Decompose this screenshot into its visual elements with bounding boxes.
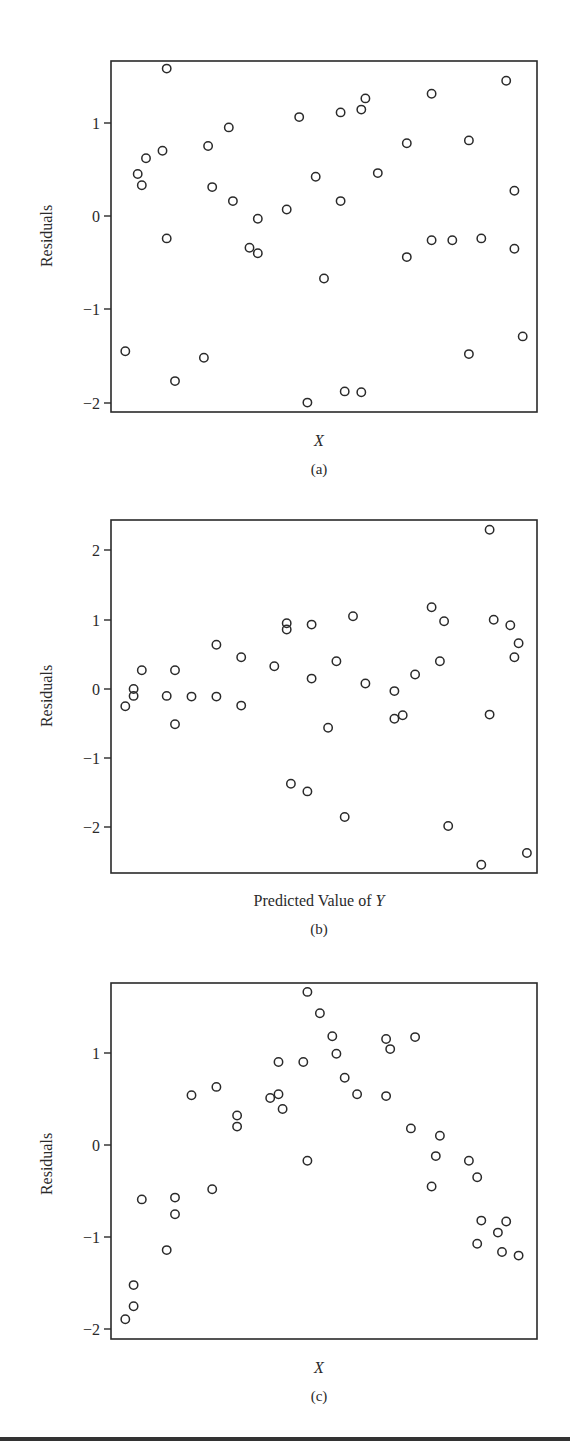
data-point <box>299 1058 307 1066</box>
data-point <box>403 139 411 147</box>
data-points <box>121 64 527 406</box>
panel-a: 1 0 −1 −2 Residuals X (a) <box>0 0 570 480</box>
data-point <box>237 701 245 709</box>
data-point <box>498 1248 506 1256</box>
x-axis-label: X <box>313 432 325 449</box>
data-point <box>514 639 522 647</box>
data-point <box>274 1090 282 1098</box>
data-point <box>390 715 398 723</box>
y-axis-ticks <box>104 550 111 827</box>
data-point <box>320 274 328 282</box>
data-point <box>270 662 278 670</box>
y-axis-label: Residuals <box>38 665 55 727</box>
data-point <box>121 347 129 355</box>
data-point <box>490 616 498 624</box>
data-point <box>465 136 473 144</box>
panel-caption: (c) <box>311 1388 328 1405</box>
data-point <box>494 1228 502 1236</box>
data-point <box>407 1124 415 1132</box>
data-point <box>307 620 315 628</box>
data-point <box>254 249 262 257</box>
data-point <box>171 377 179 385</box>
data-point <box>510 187 518 195</box>
data-point <box>204 142 212 150</box>
data-point <box>382 1035 390 1043</box>
data-point <box>274 1058 282 1066</box>
data-point <box>171 1210 179 1218</box>
data-point <box>502 77 510 85</box>
y-tick-label: −2 <box>83 819 100 836</box>
data-point <box>254 215 262 223</box>
y-tick-label: 2 <box>92 542 100 559</box>
data-point <box>307 674 315 682</box>
y-axis-ticks <box>104 123 111 403</box>
data-point <box>332 1050 340 1058</box>
data-point <box>477 234 485 242</box>
data-point <box>440 617 448 625</box>
data-point <box>411 1033 419 1041</box>
data-point <box>514 1251 522 1259</box>
data-point <box>436 657 444 665</box>
y-axis-ticks <box>104 1053 111 1329</box>
y-axis-label: Residuals <box>38 1133 55 1195</box>
y-tick-label: −2 <box>83 395 100 412</box>
data-point <box>295 113 303 121</box>
data-point <box>212 641 220 649</box>
data-point <box>171 720 179 728</box>
data-point <box>341 387 349 395</box>
panel-b: 2 1 0 −1 −2 Residuals Predicted Value of… <box>0 480 570 950</box>
data-point <box>163 1246 171 1254</box>
data-point <box>129 1281 137 1289</box>
data-point <box>134 170 142 178</box>
scatter-chart-a: 1 0 −1 −2 Residuals X (a) <box>0 0 570 480</box>
data-point <box>212 692 220 700</box>
data-point <box>187 1091 195 1099</box>
panel-caption: (b) <box>310 921 328 938</box>
data-point <box>485 710 493 718</box>
y-tick-label: −1 <box>83 750 100 767</box>
data-point <box>374 169 382 177</box>
data-point <box>485 526 493 534</box>
data-point <box>278 1105 286 1113</box>
data-point <box>427 236 435 244</box>
data-point <box>138 1195 146 1203</box>
data-point <box>473 1173 481 1181</box>
data-point <box>158 147 166 155</box>
data-point <box>357 388 365 396</box>
data-point <box>324 724 332 732</box>
data-point <box>316 1009 324 1017</box>
page-bottom-rule <box>0 1437 570 1441</box>
data-point <box>163 692 171 700</box>
y-tick-label: 0 <box>92 1137 100 1154</box>
data-point <box>523 849 531 857</box>
data-point <box>187 692 195 700</box>
data-point <box>212 1083 220 1091</box>
data-point <box>427 90 435 98</box>
data-point <box>427 1182 435 1190</box>
y-tick-label: 1 <box>92 1045 100 1062</box>
x-axis-label-variable: Y <box>375 892 386 909</box>
data-point <box>200 354 208 362</box>
y-tick-label: 0 <box>92 681 100 698</box>
data-point <box>432 1152 440 1160</box>
data-point <box>237 653 245 661</box>
data-point <box>477 1216 485 1224</box>
data-point <box>283 625 291 633</box>
data-point <box>303 398 311 406</box>
data-point <box>336 108 344 116</box>
data-point <box>312 173 320 181</box>
data-point <box>303 1157 311 1165</box>
data-point <box>208 183 216 191</box>
data-point <box>465 350 473 358</box>
data-point <box>506 621 514 629</box>
data-point <box>245 244 253 252</box>
y-tick-label: 1 <box>92 612 100 629</box>
data-point <box>390 687 398 695</box>
data-point <box>510 653 518 661</box>
data-point <box>349 612 357 620</box>
data-point <box>510 245 518 253</box>
data-point <box>403 253 411 261</box>
data-point <box>519 332 527 340</box>
data-point <box>465 1157 473 1165</box>
data-point <box>225 123 233 131</box>
